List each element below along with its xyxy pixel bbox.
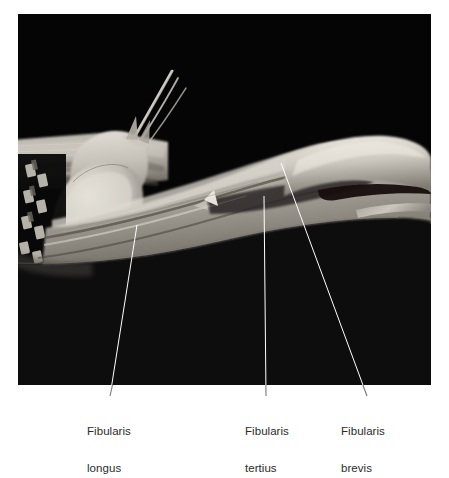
leader-line-fibularis-brevis-outside <box>363 385 367 396</box>
label-fibularis-tertius: Fibularis tertius <box>245 400 289 478</box>
label-fibularis-longus-line1: Fibularis <box>87 425 131 437</box>
label-fibularis-tertius-line2: tertius <box>245 462 289 474</box>
label-fibularis-longus: Fibularis longus <box>87 400 131 478</box>
photo-canvas <box>18 14 431 385</box>
leader-line-fibularis-longus-outside <box>110 385 113 396</box>
label-fibularis-brevis-line1: Fibularis <box>341 425 385 437</box>
label-fibularis-tertius-line1: Fibularis <box>245 425 289 437</box>
label-fibularis-brevis: Fibularis brevis <box>341 400 385 478</box>
label-fibularis-longus-line2: longus <box>87 462 131 474</box>
cadaveric-dissection-photo <box>18 14 431 385</box>
label-fibularis-brevis-line2: brevis <box>341 462 385 474</box>
